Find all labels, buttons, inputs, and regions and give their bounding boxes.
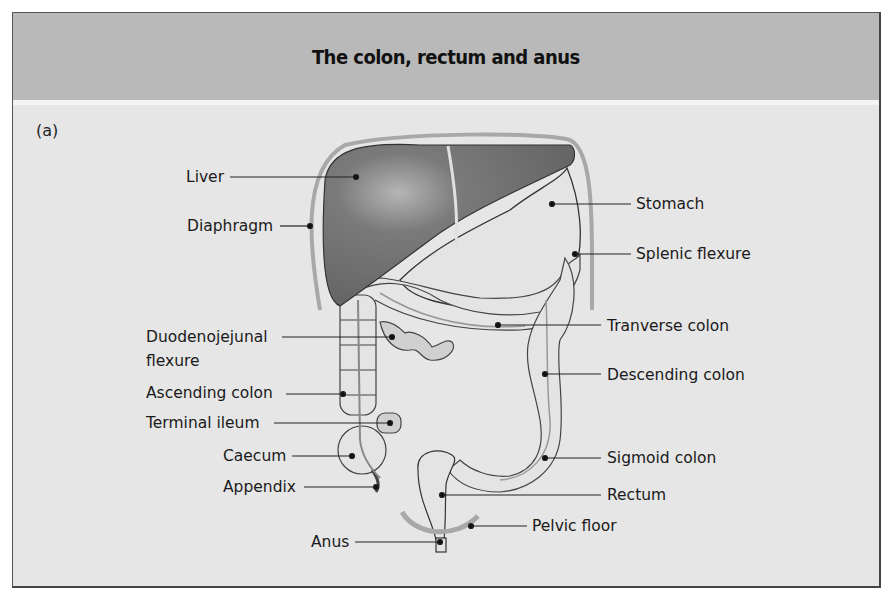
label-descending-colon: Descending colon	[607, 366, 745, 384]
label-duodenojejunal: Duodenojejunal	[146, 328, 268, 346]
label-stomach: Stomach	[636, 195, 704, 213]
label-diaphragm: Diaphragm	[187, 217, 273, 235]
label-rectum: Rectum	[607, 486, 666, 504]
label-splenic-flexure: Splenic flexure	[636, 245, 751, 263]
label-anus: Anus	[311, 533, 349, 551]
label-caecum: Caecum	[223, 447, 286, 465]
label-appendix: Appendix	[223, 478, 296, 496]
label-transverse-colon: Tranverse colon	[606, 317, 729, 335]
colon-anatomy-diagram: Liver Diaphragm Duodenojejunal flexure A…	[0, 0, 893, 602]
label-sigmoid-colon: Sigmoid colon	[607, 449, 716, 467]
label-pelvic-floor: Pelvic floor	[532, 517, 617, 535]
duodenojejunal-shape	[380, 322, 453, 361]
label-liver: Liver	[186, 168, 225, 186]
label-duodenojejunal-line2: flexure	[146, 352, 200, 370]
label-ascending-colon: Ascending colon	[146, 384, 273, 402]
label-terminal-ileum: Terminal ileum	[145, 414, 260, 432]
